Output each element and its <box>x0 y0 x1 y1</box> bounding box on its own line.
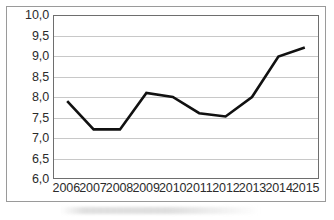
x-tick-label: 2011 <box>186 181 212 195</box>
x-tick-label: 2010 <box>159 181 186 195</box>
plot-area <box>53 15 319 179</box>
y-axis-tick-labels: 10,09,59,08,58,07,57,06,56,0 <box>9 15 51 179</box>
chart-figure: 10,09,59,08,58,07,57,06,56,0 20062007200… <box>6 6 326 202</box>
x-tick-label: 2012 <box>212 181 239 195</box>
plot-wrapper: 10,09,59,08,58,07,57,06,56,0 20062007200… <box>7 7 325 201</box>
line-series <box>54 16 318 178</box>
x-tick-label: 2006 <box>53 181 80 195</box>
y-tick-label: 6,0 <box>32 172 49 186</box>
y-tick-label: 8,5 <box>32 70 49 84</box>
y-tick-label: 7,0 <box>32 131 49 145</box>
y-tick-label: 9,5 <box>32 29 49 43</box>
x-axis-tick-labels: 2006200720082009201020112012201320142015 <box>53 181 319 199</box>
y-tick-label: 8,0 <box>32 90 49 104</box>
y-tick-label: 9,0 <box>32 49 49 63</box>
x-tick-label: 2009 <box>132 181 159 195</box>
series-polyline <box>67 48 305 130</box>
x-tick-label: 2013 <box>239 181 266 195</box>
x-tick-label: 2015 <box>292 181 319 195</box>
page-shadow-artifact <box>60 207 260 214</box>
x-tick-label: 2007 <box>79 181 106 195</box>
y-tick-label: 7,5 <box>32 111 49 125</box>
x-tick-label: 2014 <box>265 181 292 195</box>
y-tick-label: 10,0 <box>25 8 49 22</box>
y-tick-label: 6,5 <box>32 152 49 166</box>
x-tick-label: 2008 <box>106 181 133 195</box>
